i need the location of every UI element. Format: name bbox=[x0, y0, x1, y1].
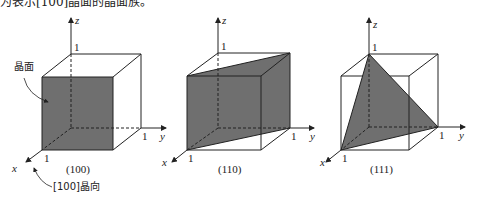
miller-planes-diagram: z 1 1 y 1 x 晶面 [100]晶向 (100) z 1 1 y 1 x… bbox=[0, 0, 479, 201]
x-unit: 1 bbox=[342, 152, 348, 164]
plane-110 bbox=[187, 53, 290, 150]
direction-label: [100]晶向 bbox=[53, 180, 100, 192]
y-unit: 1 bbox=[439, 129, 445, 141]
z-label: z bbox=[221, 14, 227, 26]
y-label: y bbox=[309, 130, 315, 142]
z-unit: 1 bbox=[74, 41, 80, 53]
cube-110: z 1 1 y 1 x (110) bbox=[161, 14, 315, 176]
z-unit: 1 bbox=[221, 40, 227, 52]
direction-pointer-arrow bbox=[34, 168, 52, 187]
caption-111: (111) bbox=[370, 163, 393, 176]
caption-110: (110) bbox=[218, 163, 242, 176]
x-label: x bbox=[11, 162, 17, 174]
cube-100: z 1 1 y 1 x 晶面 [100]晶向 (100) bbox=[11, 14, 166, 192]
x-axis bbox=[26, 150, 42, 162]
x-label: x bbox=[161, 156, 167, 168]
cube-111: z 1 1 y 1 x (111) bbox=[319, 18, 465, 176]
x-unit: 1 bbox=[44, 152, 50, 164]
plane-100 bbox=[42, 77, 113, 150]
z-label: z bbox=[74, 14, 80, 26]
caption-100: (100) bbox=[66, 163, 90, 176]
x-label: x bbox=[319, 156, 325, 168]
y-label: y bbox=[159, 130, 165, 142]
x-unit: 1 bbox=[188, 152, 194, 164]
z-unit: 1 bbox=[372, 41, 378, 53]
y-unit: 1 bbox=[291, 130, 297, 142]
y-unit: 1 bbox=[142, 130, 148, 142]
z-label: z bbox=[372, 18, 378, 30]
plane-111 bbox=[341, 54, 438, 150]
plane-label: 晶面 bbox=[14, 61, 34, 72]
y-label: y bbox=[458, 129, 464, 141]
